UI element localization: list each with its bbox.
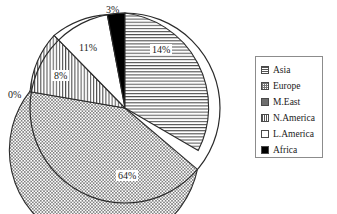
pie-label-meast: 0% bbox=[8, 89, 21, 100]
pie-label-europe: 64% bbox=[116, 170, 138, 181]
legend-label-europe: Europe bbox=[273, 81, 300, 91]
legend-label-namerica: N.America bbox=[273, 113, 315, 123]
pie-label-lamerica: 11% bbox=[79, 42, 97, 53]
legend-swatch-asia-icon bbox=[261, 66, 269, 74]
legend-label-africa: Africa bbox=[273, 145, 297, 155]
legend-swatch-meast-icon bbox=[261, 98, 269, 106]
legend-swatch-europe-icon bbox=[261, 82, 269, 90]
legend-swatch-lamerica-icon bbox=[261, 130, 269, 138]
legend-item-meast[interactable]: M.East bbox=[261, 94, 322, 109]
legend-item-europe[interactable]: Europe bbox=[261, 78, 322, 93]
legend-swatch-africa-icon bbox=[261, 146, 269, 154]
legend-item-lamerica[interactable]: L.America bbox=[261, 126, 322, 141]
pie-label-africa: 3% bbox=[106, 4, 119, 15]
legend-label-lamerica: L.America bbox=[273, 129, 314, 139]
pie-chart-figure: 14% 64% 0% 8% 11% 3% Asia Europe M.East … bbox=[0, 0, 337, 214]
legend-item-africa[interactable]: Africa bbox=[261, 142, 322, 157]
pie-label-namerica: 8% bbox=[52, 70, 69, 81]
legend-item-namerica[interactable]: N.America bbox=[261, 110, 322, 125]
pie-chart-svg bbox=[0, 0, 240, 214]
chart-legend: Asia Europe M.East N.America L.America A… bbox=[255, 56, 323, 158]
legend-label-meast: M.East bbox=[273, 97, 300, 107]
legend-item-asia[interactable]: Asia bbox=[261, 62, 322, 77]
pie-label-asia: 14% bbox=[150, 44, 172, 55]
legend-swatch-namerica-icon bbox=[261, 114, 269, 122]
pie-chart-area: 14% 64% 0% 8% 11% 3% bbox=[0, 0, 240, 214]
legend-label-asia: Asia bbox=[273, 65, 290, 75]
